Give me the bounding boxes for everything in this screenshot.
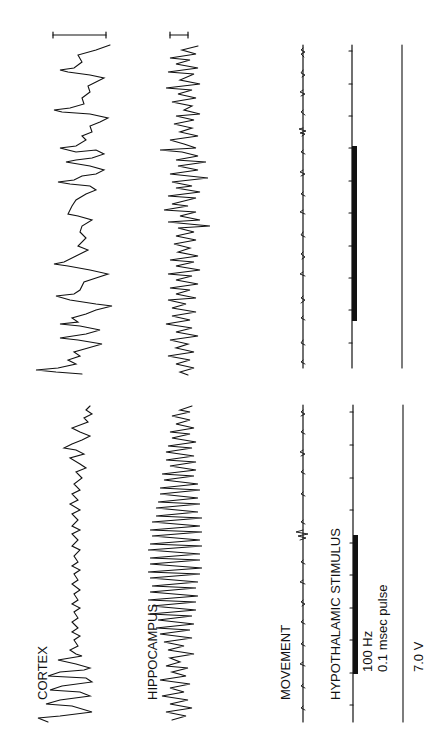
hippocampus-scale-bar: [170, 32, 188, 38]
upper-panel: [36, 32, 402, 375]
stimulus-bar-upper: [352, 146, 357, 321]
stimulus-bar-lower: [353, 535, 358, 674]
cortex-trace-upper: [36, 45, 112, 374]
label-hypothalamic-stimulus: HYPOTHALAMIC STIMULUS: [329, 528, 342, 700]
cortex-scale-bar: [53, 32, 106, 38]
movement-trace-upper: [299, 45, 306, 368]
label-movement: MOVEMENT: [279, 625, 292, 700]
label-frequency: 100 Hz: [361, 631, 374, 672]
hippocampus-trace-upper: [160, 46, 210, 375]
label-hippocampus: HIPPOCAMPUS: [146, 604, 159, 700]
label-pulse-width: 0.1 msec pulse: [376, 585, 389, 672]
lower-panel: [38, 405, 403, 722]
movement-trace-lower: [296, 405, 308, 722]
label-voltage: 7.0 V: [412, 642, 425, 672]
stimulus-marker-lower: [350, 405, 353, 722]
label-cortex: CORTEX: [36, 646, 49, 700]
stimulus-marker-upper: [349, 45, 352, 368]
